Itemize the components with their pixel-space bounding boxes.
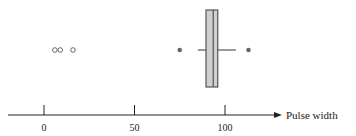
x-axis: 050100 Pulse width (8, 105, 338, 133)
extreme-outlier-circle (53, 48, 58, 53)
box-plot (53, 10, 251, 87)
x-axis-label: Pulse width (286, 109, 338, 121)
extreme-outlier-circle (58, 48, 63, 53)
extreme-outlier-circle (71, 48, 76, 53)
mild-outlier-dot (177, 48, 182, 53)
iqr-box (206, 10, 218, 87)
tick-label: 100 (218, 122, 233, 133)
mild-outlier-dot (246, 48, 251, 53)
tick-label: 0 (42, 122, 47, 133)
boxplot-chart: 050100 Pulse width (0, 0, 356, 136)
tick-label: 50 (130, 122, 140, 133)
axis-arrow-icon (274, 112, 282, 118)
